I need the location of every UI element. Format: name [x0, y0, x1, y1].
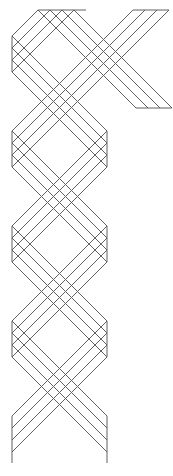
braid-pattern-page [0, 0, 173, 476]
braid-pattern-canvas [0, 0, 173, 476]
strand-a-line-3 [12, 10, 172, 452]
strand-b-line-2 [12, 10, 157, 440]
strand-a-line-0 [12, 10, 136, 416]
